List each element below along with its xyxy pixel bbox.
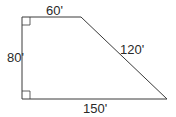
bottom-side-label: 150' [83,101,107,116]
trapezoid-outline [22,17,167,99]
trapezoid-diagram: 60' 80' 120' 150' [0,0,176,117]
left-side-label: 80' [7,50,24,65]
right-angle-marker-bottom-left [22,91,30,99]
top-side-label: 60' [46,3,63,18]
right-angle-marker-top-left [22,17,30,25]
slant-side-label: 120' [120,42,144,57]
